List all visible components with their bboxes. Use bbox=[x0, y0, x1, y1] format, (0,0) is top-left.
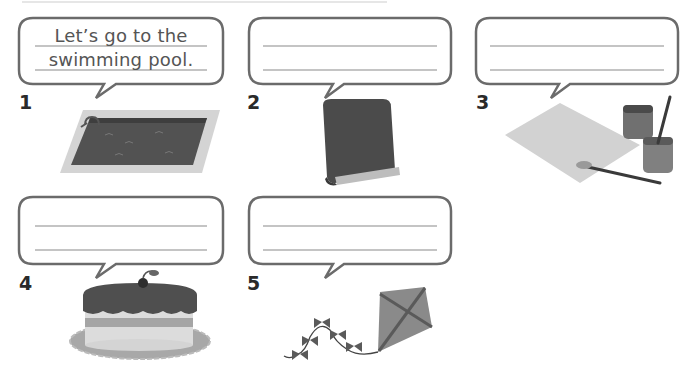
item-number: 5 bbox=[247, 272, 260, 294]
kite-icon bbox=[280, 282, 445, 367]
